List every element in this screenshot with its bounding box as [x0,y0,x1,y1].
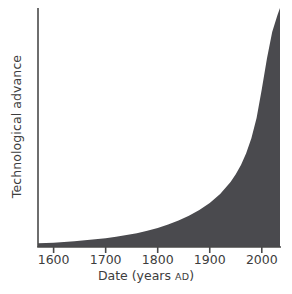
x-axis-title-era: AD [175,271,189,282]
x-axis-title-main: Date (years [98,268,175,283]
x-axis-tick-label-2000: 2000 [246,252,278,267]
x-axis-tick-label-1700: 1700 [90,252,122,267]
x-axis-tick-label-1900: 1900 [194,252,226,267]
chart-plot-area [0,0,292,294]
area-series-group [38,8,280,247]
x-axis-tick-label-1800: 1800 [142,252,174,267]
x-axis-title: Date (years AD) [0,268,292,283]
x-axis-tick-label-1600: 1600 [38,252,70,267]
area-series-technological-advance [38,8,280,247]
x-axis-title-close: ) [189,268,194,283]
chart-figure: Technological advance 160017001800190020… [0,0,292,294]
